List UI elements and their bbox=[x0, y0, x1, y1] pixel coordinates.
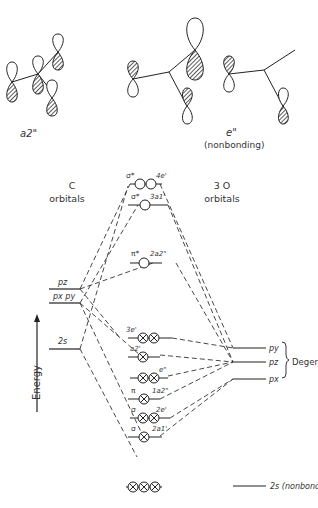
mo-1a2-label: 1a2" bbox=[152, 387, 168, 395]
o-header: 3 O bbox=[214, 180, 231, 191]
nonbonding-2s-label: 2s (nonbonding) bbox=[270, 482, 318, 491]
mo-nonbonding-2s bbox=[126, 482, 162, 492]
c-header: C bbox=[69, 180, 76, 191]
mo-2a1-star: σ bbox=[131, 424, 136, 433]
mo-3e-prime bbox=[128, 333, 172, 343]
mo-2a2-double-prime bbox=[130, 258, 162, 268]
a2-orbital-sketch bbox=[7, 34, 64, 116]
mo-a2-prime bbox=[128, 352, 160, 362]
mo-4e-label: 4e' bbox=[156, 172, 167, 180]
mo-e-double-prime-label: e" bbox=[159, 366, 167, 374]
a2-label: a2" bbox=[20, 128, 37, 139]
o-py-label: py bbox=[268, 344, 279, 353]
o-pz-label: pz bbox=[268, 358, 279, 367]
c-2s-label: 2s bbox=[58, 337, 67, 346]
e-double-prime-label: e" bbox=[226, 127, 237, 138]
mo-3e-label: 3e' bbox=[126, 326, 137, 334]
mo-1a2-double-prime bbox=[128, 394, 160, 404]
o-levels bbox=[233, 348, 266, 486]
energy-axis: Energy bbox=[31, 314, 42, 412]
mo-2a2-star: π* bbox=[131, 249, 140, 258]
mo-2a2-label: 2a2" bbox=[150, 250, 166, 258]
c-pxpy-label: px py bbox=[52, 292, 75, 301]
mo-1a2-star: π bbox=[131, 386, 136, 395]
mo-3a1-label: 3a1' bbox=[150, 193, 165, 201]
degenerate-label: Degenerate bbox=[292, 357, 318, 367]
mo-2e-label: 2e' bbox=[156, 406, 167, 414]
mo-diagram: a2" e" (nonbonding) C orbitals 3 O orbit… bbox=[0, 0, 318, 508]
o-orbitals-subheader: orbitals bbox=[204, 193, 240, 204]
mo-4e-prime bbox=[130, 179, 162, 189]
nonbonding-sublabel: (nonbonding) bbox=[204, 140, 265, 150]
mo-e-double-prime bbox=[130, 373, 168, 383]
energy-label: Energy bbox=[31, 365, 42, 400]
o-px-label: px bbox=[268, 375, 279, 384]
degenerate-brace bbox=[282, 342, 289, 378]
e-orbital-sketch-2 bbox=[224, 50, 295, 124]
c-pz-label: pz bbox=[57, 278, 68, 287]
mo-3a1-star: σ* bbox=[131, 192, 140, 201]
mo-2a1-label: 2a1' bbox=[152, 425, 167, 433]
mo-2e-star: σ bbox=[131, 405, 136, 414]
mo-4e-star: σ* bbox=[126, 171, 135, 180]
mo-a2-prime-label: a2' bbox=[130, 345, 141, 353]
c-orbitals-subheader: orbitals bbox=[49, 193, 85, 204]
mo-2a1-prime bbox=[128, 432, 162, 442]
mo-3a1-prime bbox=[128, 200, 168, 210]
e-orbital-sketch-1 bbox=[128, 18, 204, 124]
